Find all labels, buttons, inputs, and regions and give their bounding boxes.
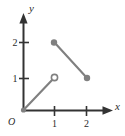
segment-1-open-endpoint [51,74,57,80]
graph-figure: y x O 1 2 1 2 [0,0,125,136]
segment-1-group [21,74,58,112]
segment-1-closed-endpoint-origin [21,107,26,112]
y-tick-label-2: 2 [13,37,18,48]
segment-1-line [24,78,55,110]
x-axis-arrowhead [103,106,114,114]
y-axis-label: y [28,2,34,14]
y-axis-arrowhead [19,13,27,24]
segment-2-line [55,43,88,79]
segment-2-closed-endpoint-left [51,39,57,45]
x-tick-label-1: 1 [52,118,57,129]
coordinate-plot: y x O 1 2 1 2 [0,0,125,136]
origin-label: O [8,116,15,127]
y-tick-label-1: 1 [13,73,18,84]
x-tick-label-2: 2 [84,118,89,129]
segment-2-closed-endpoint-right [84,75,90,81]
x-axis-label: x [114,100,120,112]
